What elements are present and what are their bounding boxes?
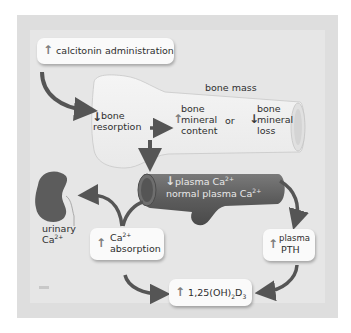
arrow-absorption-to-kidney [88,195,122,226]
calcitonin-label: ↑ calcitonin administration [43,45,174,56]
bone-mass-label: bone mass [205,82,257,93]
arrow-calcitonin-to-resorption [42,72,86,110]
bone-mineral-loss-label: ↓ bone mineral loss [249,103,293,136]
up-arrow-icon: ↑ [96,238,106,249]
arrow-pth-to-vitd [265,265,297,292]
urinary-ca-label: urinary Ca2+ [42,223,76,245]
or-label: or [225,115,235,126]
down-arrow-icon: ↓ [92,112,102,123]
kidney-icon [35,171,67,222]
up-arrow-icon: ↑ [268,239,278,250]
vitamin-d-label: ↑ 1,25(OH)2D3 [175,287,246,298]
down-arrow-icon: ↓ [165,174,175,188]
up-arrow-icon: ↑ [173,114,183,125]
arrow-absorption-to-vitd [125,275,160,294]
bone-resorption-label: ↓ bone resorption [92,110,141,132]
plasma-ca-label: ↓plasma Ca2+ [165,176,234,187]
figure-code-mark [39,286,49,289]
up-arrow-icon: ↑ [43,43,53,57]
ca-absorption-label: ↑ Ca2+ absorption [96,232,161,254]
down-arrow-icon: ↓ [249,114,259,125]
bone-mineral-content-label: ↑ bone mineral content [173,103,217,136]
normal-plasma-ca-label: normal plasma Ca2+ [166,188,261,199]
up-arrow-icon: ↑ [175,285,185,299]
plasma-pth-label: ↑ plasma PTH [268,233,310,255]
arrow-vessel-to-absorption [123,202,143,226]
